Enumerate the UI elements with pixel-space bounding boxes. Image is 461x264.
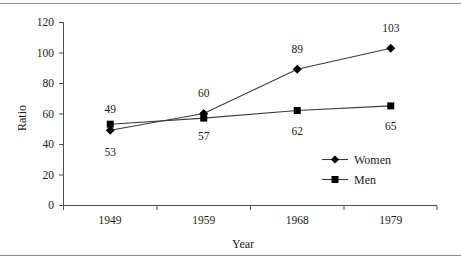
data-label-women-1949: 49 <box>95 104 125 116</box>
data-point-men-1979 <box>387 102 394 109</box>
data-label-men-1979: 65 <box>376 121 406 133</box>
x-tick-label-1979: 1979 <box>366 215 416 227</box>
legend-label-men: Men <box>354 174 376 186</box>
x-tick-label-1959: 1959 <box>179 215 229 227</box>
y-tick-marks <box>59 23 64 206</box>
data-point-women-1979 <box>386 44 395 53</box>
y-tick-label-40: 40 <box>24 139 54 151</box>
data-label-men-1949: 53 <box>95 147 125 159</box>
x-tick-label-1968: 1968 <box>272 215 322 227</box>
y-tick-label-80: 80 <box>24 78 54 90</box>
x-tick-marks <box>64 206 438 211</box>
figure-container: 120 100 80 60 40 20 0 1949 1959 1968 197… <box>0 0 461 264</box>
y-tick-label-120: 120 <box>24 17 54 29</box>
y-tick-label-20: 20 <box>24 170 54 182</box>
data-label-men-1959: 57 <box>189 131 219 143</box>
y-axis-title: Ratio <box>16 105 28 131</box>
series-line-men <box>110 106 391 124</box>
data-label-women-1979: 103 <box>376 23 406 35</box>
data-label-women-1968: 89 <box>282 44 312 56</box>
data-label-men-1968: 62 <box>282 126 312 138</box>
data-point-men-1968 <box>294 107 301 114</box>
x-tick-label-1949: 1949 <box>85 215 135 227</box>
x-axis-title: Year <box>232 238 254 250</box>
y-tick-label-100: 100 <box>24 48 54 60</box>
series-line-women <box>110 48 391 130</box>
y-tick-label-0: 0 <box>24 200 54 212</box>
data-point-men-1959 <box>200 115 207 122</box>
data-label-women-1959: 60 <box>189 88 219 100</box>
legend-marker-men-square <box>332 176 339 183</box>
data-point-women-1968 <box>293 65 302 74</box>
series-markers-men <box>107 102 395 127</box>
legend-marker-women-diamond <box>331 156 339 164</box>
data-point-men-1949 <box>107 121 114 128</box>
legend-label-women: Women <box>354 154 391 166</box>
